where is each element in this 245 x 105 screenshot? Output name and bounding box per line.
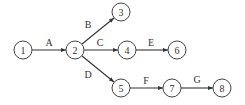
node-8: 8: [213, 79, 231, 97]
node-label-3: 3: [119, 7, 124, 18]
edge-label-a: A: [45, 37, 53, 48]
edge-label-c: C: [97, 37, 104, 48]
node-label-2: 2: [73, 45, 78, 56]
node-5: 5: [112, 79, 130, 97]
node-label-4: 4: [125, 45, 130, 56]
network-diagram: A B C D E F G 1 2 3 4 5 6: [0, 0, 245, 105]
node-label-5: 5: [119, 83, 124, 94]
edge-label-g: G: [193, 74, 200, 85]
node-label-8: 8: [220, 83, 225, 94]
node-7: 7: [163, 79, 181, 97]
edge-label-f: F: [143, 75, 149, 86]
node-label-6: 6: [175, 45, 180, 56]
node-label-7: 7: [170, 83, 175, 94]
edge-label-d: D: [84, 69, 91, 80]
node-1: 1: [14, 41, 32, 59]
node-label-1: 1: [21, 45, 26, 56]
node-6: 6: [168, 41, 186, 59]
node-4: 4: [118, 41, 136, 59]
node-2: 2: [66, 41, 84, 59]
node-3: 3: [112, 3, 130, 21]
edge-label-b: B: [85, 19, 92, 30]
edge-label-e: E: [148, 37, 154, 48]
